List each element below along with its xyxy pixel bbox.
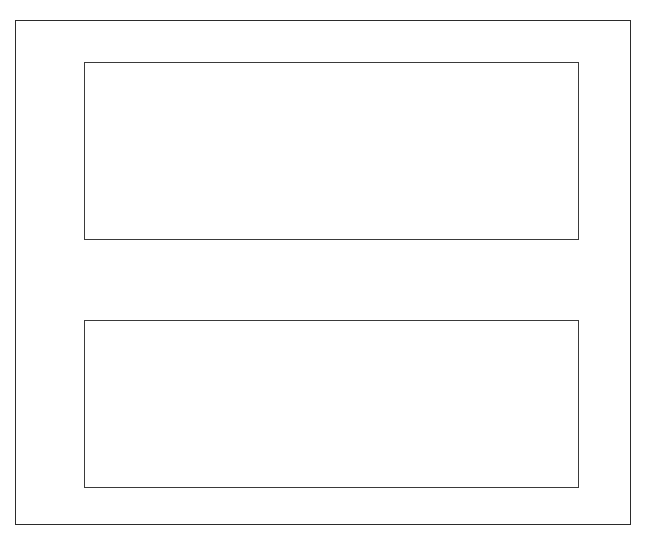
figure-container (0, 0, 648, 544)
top-chart-canvas (0, 0, 648, 275)
panel-outlays-and-debt-percent-gdp (0, 0, 648, 275)
bottom-chart-canvas (0, 275, 648, 544)
panel-gross-federal-debt (0, 275, 648, 544)
